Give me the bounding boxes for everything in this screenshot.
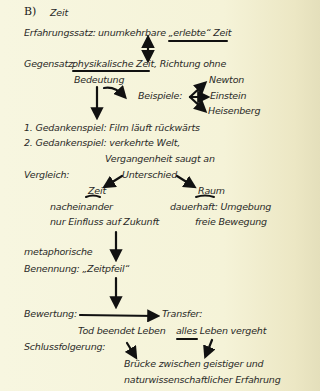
underline-zeit-icon bbox=[86, 196, 100, 198]
arrow-heisenberg-icon bbox=[190, 97, 204, 110]
arrow-bruecke-right-icon bbox=[206, 340, 212, 355]
arrow-newton-icon bbox=[190, 84, 204, 97]
arrow-raum-icon bbox=[177, 176, 193, 186]
underline-raum-icon bbox=[196, 196, 214, 198]
arrow-bruecke-left-icon bbox=[127, 343, 135, 356]
arrow-zeit-icon bbox=[106, 176, 122, 186]
arrows-overlay bbox=[0, 0, 294, 391]
arrow-right-icon bbox=[104, 88, 124, 96]
arrow-transfer-icon bbox=[80, 315, 156, 316]
